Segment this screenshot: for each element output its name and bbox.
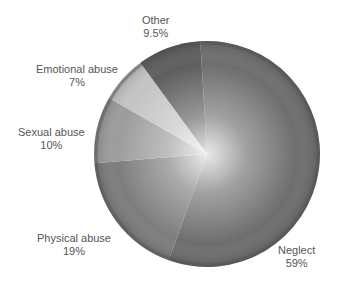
label-neglect-pct: 59% — [278, 257, 315, 270]
label-sexual-abuse-pct: 10% — [18, 139, 85, 152]
label-physical-abuse: Physical abuse 19% — [37, 232, 111, 258]
label-other: Other 9.5% — [142, 14, 170, 40]
label-physical-abuse-pct: 19% — [37, 245, 111, 258]
label-neglect: Neglect 59% — [278, 244, 315, 270]
label-other-pct: 9.5% — [142, 27, 170, 40]
label-sexual-abuse-name: Sexual abuse — [18, 126, 85, 139]
label-neglect-name: Neglect — [278, 244, 315, 257]
label-sexual-abuse: Sexual abuse 10% — [18, 126, 85, 152]
label-other-name: Other — [142, 14, 170, 27]
label-emotional-abuse-pct: 7% — [36, 76, 118, 89]
label-emotional-abuse-name: Emotional abuse — [36, 63, 118, 76]
label-physical-abuse-name: Physical abuse — [37, 232, 111, 245]
label-emotional-abuse: Emotional abuse 7% — [36, 63, 118, 89]
